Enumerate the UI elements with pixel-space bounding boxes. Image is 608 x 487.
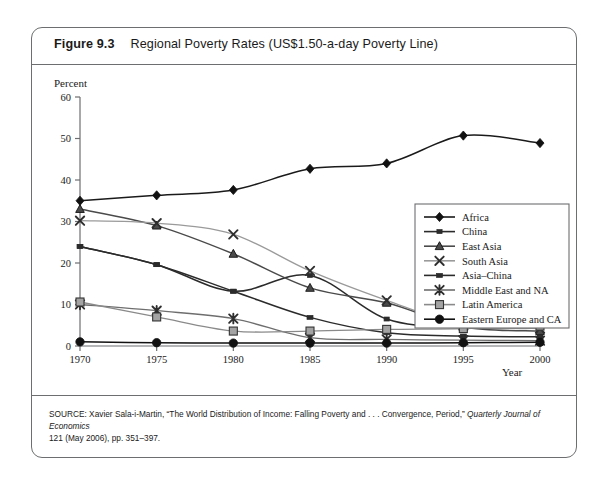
x-tick-1970: 1970 — [70, 354, 91, 365]
legend-label: South Asia — [462, 256, 508, 267]
legend-item-latin-america[interactable]: Latin America — [424, 299, 523, 310]
y-tick-50: 50 — [61, 133, 72, 144]
x-tick-1990: 1990 — [376, 354, 397, 365]
x-tick-1975: 1975 — [146, 354, 167, 365]
figure-card: Figure 9.3Regional Poverty Rates (US$1.5… — [31, 27, 577, 458]
y-tick-40: 40 — [61, 175, 72, 186]
figure-source-bar: SOURCE: Xavier Sala-i-Martin, “The World… — [32, 395, 576, 457]
y-tick-10: 10 — [61, 299, 72, 310]
legend-item-south-asia[interactable]: South Asia — [424, 256, 508, 267]
x-tick-1985: 1985 — [300, 354, 321, 365]
y-axis-label: Percent — [54, 77, 87, 89]
legend-label: Latin America — [462, 299, 523, 310]
x-tick-1995: 1995 — [453, 354, 474, 365]
legend-label: Africa — [462, 212, 489, 223]
series-africa — [76, 131, 544, 205]
figure-number: Figure 9.3 — [54, 37, 115, 51]
y-tick-0: 0 — [66, 341, 71, 352]
legend-item-middle-east-and-na[interactable]: Middle East and NA — [424, 285, 549, 296]
y-tick-30: 30 — [61, 216, 72, 227]
chart-plot-area: 0102030405060197019751980198519901995200… — [32, 65, 578, 395]
x-tick-1980: 1980 — [223, 354, 244, 365]
figure-title: Regional Poverty Rates (US$1.50-a-day Po… — [115, 37, 439, 51]
source-text-part2: 121 (May 2006), pp. 351–397. — [49, 433, 160, 443]
x-axis-label: Year — [502, 366, 523, 378]
source-text-part1: SOURCE: Xavier Sala-i-Martin, “The World… — [49, 409, 467, 419]
y-tick-60: 60 — [61, 92, 72, 103]
x-tick-2000: 2000 — [530, 354, 551, 365]
legend-label: East Asia — [462, 241, 502, 252]
figure-title-bar: Figure 9.3Regional Poverty Rates (US$1.5… — [32, 28, 576, 65]
poverty-rates-line-chart: 0102030405060197019751980198519901995200… — [32, 65, 578, 395]
y-tick-20: 20 — [61, 258, 72, 269]
legend-label: Eastern Europe and CA — [462, 314, 562, 325]
page-title: Figure 9.3Regional Poverty Rates (US$1.5… — [54, 37, 438, 51]
legend-label: China — [462, 226, 487, 237]
chart-legend[interactable]: AfricaChinaEast AsiaSouth AsiaAsia–China… — [415, 204, 569, 328]
legend-label: Asia–China — [462, 270, 512, 281]
source-note: SOURCE: Xavier Sala-i-Martin, “The World… — [49, 408, 562, 444]
legend-label: Middle East and NA — [462, 285, 549, 296]
